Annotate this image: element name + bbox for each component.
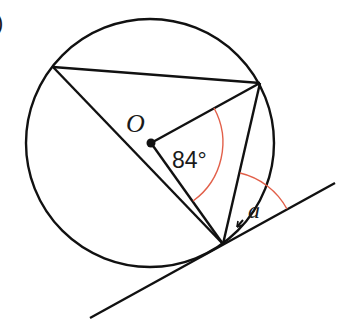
part-marker: ): [0, 10, 3, 35]
chord-ab: [53, 67, 260, 83]
tangent-line: [90, 183, 335, 318]
central-angle-label: 84°: [172, 147, 207, 173]
unknown-angle-label: a: [248, 197, 260, 223]
centre-point: [147, 139, 156, 148]
circle-theorem-diagram: ) O 84° a: [0, 0, 339, 335]
centre-label: O: [126, 109, 145, 138]
radius-ob: [151, 83, 260, 143]
